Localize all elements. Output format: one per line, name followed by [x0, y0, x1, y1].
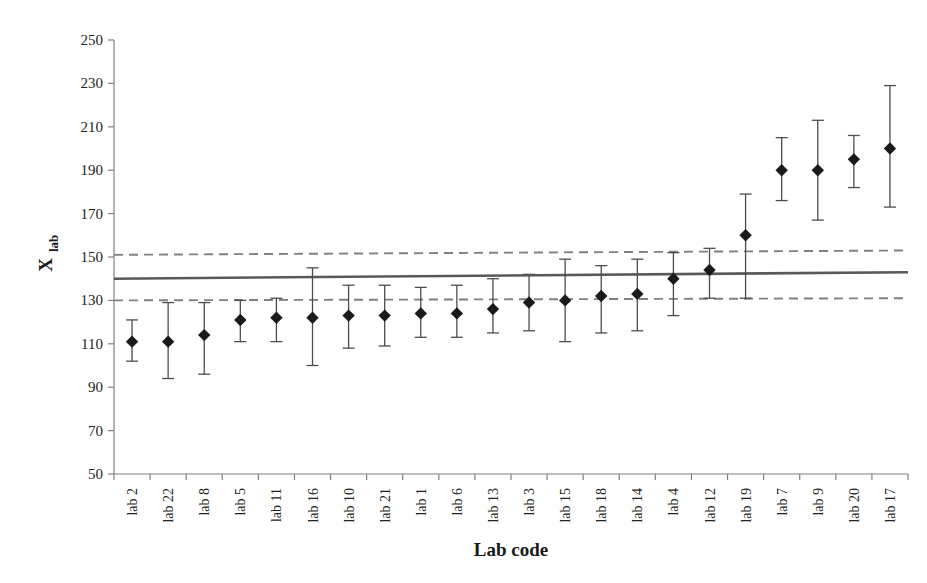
y-axis-tick-label: 50 — [88, 466, 103, 482]
data-point-group — [739, 194, 751, 298]
data-point-marker — [775, 164, 787, 176]
data-point-marker — [884, 142, 896, 154]
reference-line-upper-limit — [114, 250, 908, 254]
y-axis-title-main: X — [35, 258, 56, 272]
x-axis-category-label: lab 17 — [883, 488, 898, 523]
y-axis-tick-label: 230 — [81, 75, 104, 91]
x-axis-category-label: lab 12 — [703, 488, 718, 523]
x-axis-category-label: lab 18 — [594, 488, 609, 523]
data-point-group — [451, 285, 463, 337]
x-axis-category-label: lab 7 — [775, 488, 790, 516]
data-point-group — [775, 138, 787, 201]
x-axis-category-label: lab 9 — [811, 488, 826, 516]
data-point-marker — [198, 329, 210, 341]
data-point-group — [162, 303, 174, 379]
y-axis-tick-label: 250 — [81, 32, 104, 48]
x-axis-category-label: lab 16 — [306, 488, 321, 523]
data-point-group — [848, 135, 860, 187]
x-axis-category-label: lab 5 — [233, 488, 248, 516]
x-axis-category-label: lab 13 — [486, 488, 501, 523]
data-point-group — [884, 86, 896, 208]
data-series-group — [126, 86, 896, 379]
x-axis-category-label: lab 19 — [739, 488, 754, 523]
y-axis-tick-label: 210 — [81, 119, 104, 135]
data-point-group — [559, 259, 571, 341]
reference-line-assigned-value — [114, 272, 908, 279]
x-axis-category-label: lab 14 — [630, 488, 645, 523]
data-point-marker — [739, 229, 751, 241]
data-point-marker — [270, 312, 282, 324]
chart-canvas: 507090110130150170190210230250lab 2lab 2… — [0, 0, 927, 583]
data-point-group — [812, 120, 824, 220]
y-axis-tick-label: 190 — [81, 162, 104, 178]
data-point-group — [631, 259, 643, 331]
x-axis-category-label: lab 15 — [558, 488, 573, 523]
x-axis-title: Lab code — [474, 539, 548, 560]
data-point-group — [523, 274, 535, 330]
data-point-group — [667, 253, 679, 316]
data-point-marker — [487, 303, 499, 315]
data-point-group — [487, 279, 499, 333]
x-axis-category-label: lab 1 — [414, 488, 429, 516]
data-point-marker — [378, 309, 390, 321]
x-axis-category-label: lab 6 — [450, 488, 465, 516]
y-axis-title: Xlab — [35, 235, 61, 272]
data-point-group — [270, 298, 282, 341]
data-point-marker — [523, 296, 535, 308]
y-axis-title-subscript: lab — [46, 235, 61, 252]
y-axis-tick-label: 90 — [88, 379, 103, 395]
data-point-marker — [342, 309, 354, 321]
x-axis-category-label: lab 2 — [125, 488, 140, 516]
data-point-marker — [595, 290, 607, 302]
y-axis-tick-label: 170 — [81, 206, 104, 222]
data-point-marker — [126, 335, 138, 347]
data-point-group — [198, 303, 210, 375]
y-axis-tick-label: 130 — [81, 292, 104, 308]
y-axis-tick-label: 150 — [81, 249, 104, 265]
data-point-marker — [415, 307, 427, 319]
x-axis-category-label: lab 4 — [666, 488, 681, 516]
data-point-marker — [306, 312, 318, 324]
x-axis-category-label: lab 21 — [378, 488, 393, 523]
x-axis-category-label: lab 10 — [342, 488, 357, 523]
data-point-group — [126, 320, 138, 361]
data-point-marker — [451, 307, 463, 319]
data-point-group — [342, 285, 354, 348]
x-axis-category-label: lab 8 — [197, 488, 212, 516]
data-point-marker — [234, 314, 246, 326]
data-point-group — [306, 268, 318, 366]
data-point-group — [234, 300, 246, 341]
scatter-plot-svg: 507090110130150170190210230250lab 2lab 2… — [0, 0, 927, 583]
y-axis-tick-label: 70 — [88, 423, 103, 439]
x-axis-category-label: lab 3 — [522, 488, 537, 516]
data-point-group — [378, 285, 390, 346]
y-axis-tick-label: 110 — [81, 336, 103, 352]
reference-line-lower-limit — [114, 298, 908, 300]
x-axis-category-label: lab 22 — [161, 488, 176, 523]
x-axis-category-label: lab 11 — [269, 488, 284, 522]
data-point-marker — [812, 164, 824, 176]
x-axis-category-label: lab 20 — [847, 488, 862, 523]
data-point-marker — [848, 153, 860, 165]
data-point-marker — [162, 335, 174, 347]
data-point-group — [415, 287, 427, 337]
data-point-marker — [559, 294, 571, 306]
